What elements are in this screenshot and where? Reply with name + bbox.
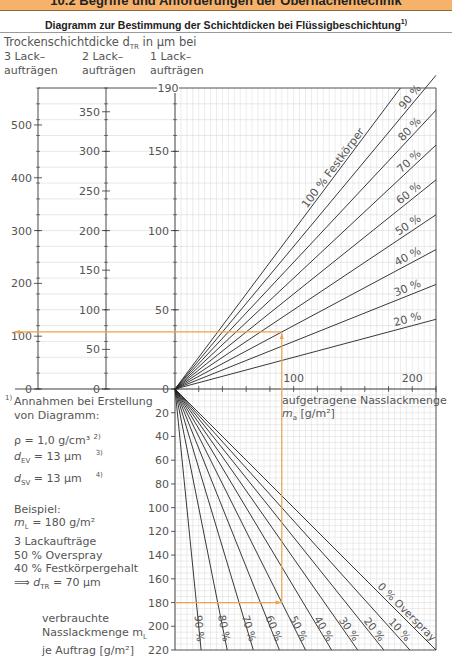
- dsv-line: dSV = 13 µm 4): [14, 469, 153, 490]
- y-tick-label-bottom: 180: [148, 597, 169, 610]
- y-tick-label: 150: [79, 264, 100, 277]
- overspray-label: 30 %: [337, 614, 362, 643]
- example-solids: 40 % Festkörpergehalt: [14, 562, 153, 576]
- y-tick-label: 0: [162, 383, 169, 396]
- example-result: ⟹ dTR = 70 µm: [14, 576, 153, 595]
- solids-label: 50 %: [393, 212, 423, 238]
- applied-amount-label: aufgetragene Nasslackmenge ma [g/m²]: [282, 394, 447, 425]
- y-tick-label: 100: [148, 225, 169, 238]
- col3-line1: 3 Lack–: [4, 50, 58, 64]
- y-tick-label: 50: [155, 304, 169, 317]
- y-tick-label-bottom: 60: [155, 454, 169, 467]
- applied-line1: aufgetragene Nasslackmenge: [282, 394, 447, 407]
- y-tick-label: 200: [11, 277, 32, 290]
- dsv-text: = 13 µm: [34, 471, 82, 484]
- y-tick-label: 300: [79, 145, 100, 158]
- y-tick-label-bottom: 40: [155, 430, 169, 443]
- y-tick-label: 100: [79, 304, 100, 317]
- col1-label: 1 Lack– aufträgen: [150, 50, 204, 77]
- dev-line: dEV = 13 µm 3): [14, 447, 153, 468]
- applied-unit: [g/m²]: [297, 407, 335, 420]
- assumptions-line2: von Diagramm:: [14, 409, 153, 423]
- y-tick-label-bottom: 200: [148, 620, 169, 633]
- x-tick-label: 100: [283, 372, 304, 385]
- assumptions-note: 1) Annahmen bei Erstellung von Diagramm:…: [14, 395, 153, 594]
- consumed-amount-label: verbrauchte Nasslackmenge mL je Auftrag …: [42, 612, 147, 658]
- y-tick-label: 250: [79, 185, 100, 198]
- example-ml: mL = 180 g/m²: [14, 516, 153, 535]
- y-tick-label: 500: [11, 119, 32, 132]
- dsv-ref: 4): [96, 471, 103, 479]
- y-tick-label: 150: [148, 145, 169, 158]
- rho-ref: 2): [94, 433, 101, 441]
- applied-line2: ma [g/m²]: [282, 407, 447, 425]
- y-tick-label: 350: [79, 106, 100, 119]
- example-overspray: 50 % Overspray: [14, 549, 153, 563]
- col2-line2: aufträgen: [82, 64, 136, 78]
- col1-line2: aufträgen: [150, 64, 204, 78]
- consumed-line3: je Auftrag [g/m²]: [42, 644, 147, 658]
- footnote-mark: 1): [5, 392, 12, 406]
- assumptions-line1: Annahmen bei Erstellung: [14, 395, 153, 409]
- consumed-sub: L: [143, 633, 147, 641]
- example-title: Beispiel:: [14, 503, 153, 517]
- col3-label: 3 Lack– aufträgen: [4, 50, 58, 77]
- col1-line1: 1 Lack–: [150, 50, 204, 64]
- y-tick-label-bottom: 20: [155, 407, 169, 420]
- rho-text: ρ = 1,0 g/cm³: [14, 434, 90, 447]
- col3-line2: aufträgen: [4, 64, 58, 78]
- y-tick-label-bottom: 80: [155, 478, 169, 491]
- dev-ref: 3): [96, 449, 103, 457]
- y-tick-label-bottom: 220: [148, 644, 169, 657]
- y-tick-label: 300: [11, 225, 32, 238]
- y-tick-label: 400: [11, 172, 32, 185]
- dry-thickness-text: Trockenschichtdicke d: [4, 35, 130, 49]
- dry-thickness-unit: in µm bei: [139, 35, 197, 49]
- example-ml-text: = 180 g/m²: [32, 516, 95, 529]
- dev-text: = 13 µm: [34, 450, 82, 463]
- solids-label: 100 % Festkörper: [299, 125, 368, 210]
- consumed-line2-text: Nasslackmenge m: [42, 626, 143, 639]
- rho-line: ρ = 1,0 g/cm³ 2): [14, 431, 153, 447]
- consumed-line1: verbrauchte: [42, 612, 147, 626]
- example-coats: 3 Lackaufträge: [14, 535, 153, 549]
- arrow-up-icon: [280, 333, 284, 339]
- y-tick-label-190: 190: [158, 82, 179, 95]
- col2-line1: 2 Lack–: [82, 50, 136, 64]
- col2-label: 2 Lack– aufträgen: [82, 50, 136, 77]
- x-tick-label: 200: [402, 372, 423, 385]
- consumed-line2: Nasslackmenge mL: [42, 626, 147, 644]
- example-result-text: = 70 µm: [53, 576, 101, 589]
- applied-symbol: m: [282, 407, 293, 420]
- overspray-label: 40 %: [312, 614, 336, 643]
- overspray-label: 50 %: [288, 614, 311, 643]
- y-tick-label: 50: [86, 343, 100, 356]
- solids-label: 40 %: [392, 244, 423, 269]
- y-tick-label: 200: [79, 225, 100, 238]
